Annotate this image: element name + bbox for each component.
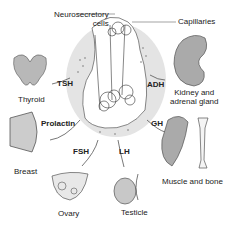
thyroid-illustration — [14, 55, 47, 85]
bone-illustration — [198, 118, 208, 168]
hormone-fsh: FSH — [73, 147, 89, 156]
ovary-label: Ovary — [58, 209, 79, 218]
hormone-tsh: TSH — [57, 79, 73, 88]
hormone-lh: LH — [119, 147, 130, 156]
kidney-illustration — [174, 35, 207, 86]
neurosecretory-line2: cells — [54, 19, 109, 28]
hormone-adh: ADH — [147, 80, 164, 89]
muscle-bone-label: Muscle and bone — [162, 177, 223, 186]
capillaries-label: Capillaries — [178, 17, 215, 26]
breast-label: Breast — [14, 167, 37, 176]
ovary-illustration — [52, 172, 88, 200]
testicle-label: Testicle — [121, 208, 148, 217]
diagram-graphics — [0, 0, 226, 225]
hormone-gh: GH — [151, 119, 163, 128]
kidney-label: Kidney and adrenal gland — [170, 88, 218, 106]
neurosecretory-line1: Neurosecretory — [54, 10, 109, 19]
breast-illustration — [10, 112, 37, 152]
neurosecretory-cells-label: Neurosecretory cells — [54, 10, 109, 28]
thyroid-label: Thyroid — [18, 95, 45, 104]
kidney-line2: adrenal gland — [170, 97, 218, 106]
testicle-illustration — [114, 178, 136, 204]
hormone-prolactin: Prolactin — [41, 119, 75, 128]
muscle-illustration — [162, 116, 188, 166]
kidney-line1: Kidney and — [170, 88, 218, 97]
